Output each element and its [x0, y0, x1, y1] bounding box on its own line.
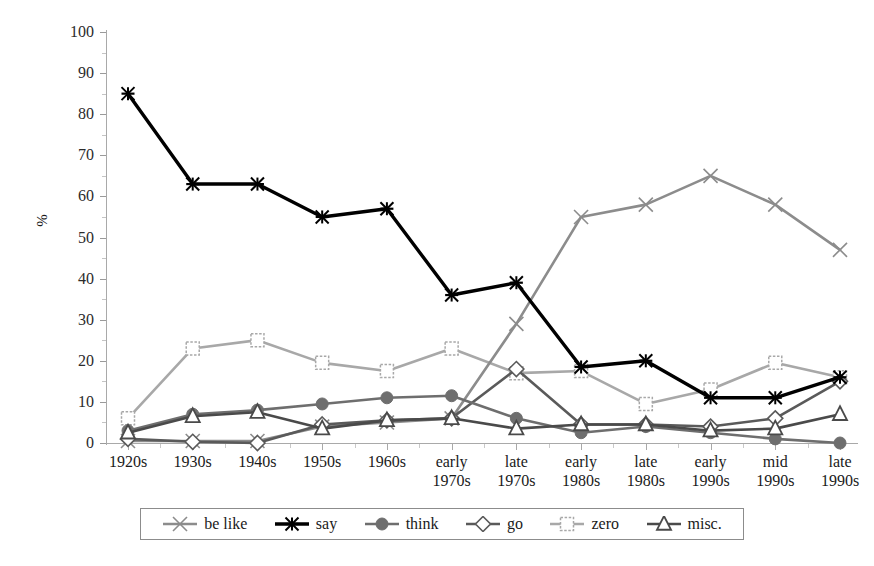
legend-swatch-star-x-icon — [274, 516, 310, 532]
data-point-star-x — [285, 518, 298, 531]
legend-label: zero — [591, 515, 619, 533]
data-point-star-x — [575, 360, 588, 373]
legend-swatch-square-icon — [549, 516, 585, 532]
data-point-star-x — [769, 391, 782, 404]
data-point-x — [509, 317, 523, 331]
legend-label: go — [507, 515, 523, 533]
legend-item-think[interactable]: think — [364, 515, 439, 533]
data-point-square — [316, 356, 329, 369]
data-point-star-x — [122, 87, 135, 100]
legend-item-say[interactable]: say — [274, 515, 337, 533]
data-point-square — [380, 365, 393, 378]
data-point-square — [186, 342, 199, 355]
data-point-diamond — [476, 517, 491, 532]
data-point-star-x — [704, 391, 717, 404]
data-point-circle — [316, 398, 328, 410]
legend-item-go[interactable]: go — [465, 515, 523, 533]
legend-label: say — [316, 515, 337, 533]
legend-swatch-x-icon — [162, 516, 198, 532]
data-point-circle — [834, 437, 846, 449]
data-point-square — [769, 356, 782, 369]
data-point-star-x — [510, 276, 523, 289]
legend-item-misc-[interactable]: misc. — [646, 515, 722, 533]
data-point-x — [768, 198, 782, 212]
series-misc- — [121, 404, 847, 438]
data-point-circle — [381, 392, 393, 404]
data-point-star-x — [834, 371, 847, 384]
data-point-star-x — [251, 178, 264, 191]
data-point-square — [445, 342, 458, 355]
data-point-circle — [446, 390, 458, 402]
legend-label: misc. — [688, 515, 722, 533]
data-point-circle — [376, 518, 388, 530]
data-point-square — [561, 518, 574, 531]
legend-item-be-like[interactable]: be like — [162, 515, 247, 533]
plot-area — [0, 0, 874, 566]
data-point-diamond — [250, 436, 265, 451]
legend-swatch-diamond-icon — [465, 516, 501, 532]
series-say — [122, 87, 847, 404]
data-point-x — [833, 243, 847, 257]
line-chart: % 0102030405060708090100 1920s1930s1940s… — [0, 0, 874, 566]
legend-label: think — [406, 515, 439, 533]
data-point-square — [639, 397, 652, 410]
data-point-x — [704, 169, 718, 183]
data-point-star-x — [445, 289, 458, 302]
data-point-star-x — [380, 202, 393, 215]
data-point-triangle — [833, 406, 847, 420]
data-point-star-x — [639, 354, 652, 367]
chart-legend: be likesaythinkgozeromisc. — [140, 508, 744, 540]
data-point-star-x — [316, 210, 329, 223]
legend-swatch-triangle-icon — [646, 516, 682, 532]
legend-label: be like — [204, 515, 247, 533]
legend-swatch-circle-icon — [364, 516, 400, 532]
data-point-star-x — [186, 178, 199, 191]
legend-item-zero[interactable]: zero — [549, 515, 619, 533]
data-point-square — [251, 334, 264, 347]
